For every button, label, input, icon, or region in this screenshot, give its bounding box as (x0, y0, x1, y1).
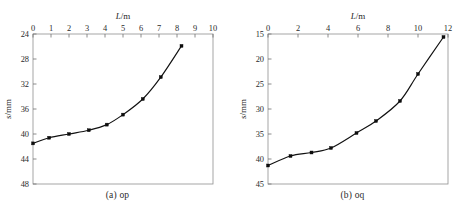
x-tick-label: 7 (157, 24, 161, 33)
x-tick-label: 0 (266, 24, 270, 33)
data-point (159, 76, 162, 79)
y-tick-label: 20 (256, 55, 264, 64)
x-tick-label: 8 (175, 24, 179, 33)
x-tick-label: 2 (296, 24, 300, 33)
x-axis-title: L/m (350, 11, 366, 21)
y-tick-label: 40 (256, 155, 264, 164)
panel-caption-a: (a) op (0, 190, 235, 200)
x-tick-label: 6 (139, 24, 143, 33)
y-tick-label: 45 (256, 180, 264, 189)
figure-row: 01234567891024283236404448L/ms/mm (a) op… (0, 0, 471, 218)
y-tick-label: 44 (21, 155, 30, 164)
y-axis-title: s/mm (3, 99, 13, 119)
x-axis-title-unit: /m (121, 11, 131, 21)
y-tick-label: 48 (21, 180, 29, 189)
data-point (375, 120, 378, 123)
data-point (267, 164, 270, 167)
y-tick-label: 40 (21, 130, 29, 139)
data-point (122, 113, 125, 116)
x-tick-label: 10 (414, 24, 422, 33)
x-tick-label: 4 (103, 24, 108, 33)
data-point (32, 142, 35, 145)
x-tick-label: 5 (121, 24, 125, 33)
y-tick-label: 30 (256, 105, 264, 114)
x-tick-label: 2 (67, 24, 71, 33)
y-tick-label: 35 (256, 130, 264, 139)
y-axis-title-unit: /mm (238, 99, 248, 116)
chart-panel-b: 02468101215202530354045L/ms/mm (b) oq (235, 0, 470, 218)
y-tick-label: 25 (256, 80, 264, 89)
x-tick-label: 4 (326, 24, 331, 33)
data-point (105, 123, 108, 126)
x-tick-label: 10 (209, 24, 217, 33)
data-point (87, 129, 90, 132)
y-axis-title-unit: /mm (3, 99, 13, 116)
y-tick-label: 36 (21, 105, 29, 114)
x-tick-label: 12 (444, 24, 452, 33)
data-point (355, 132, 358, 135)
x-axis-title: L/m (115, 11, 131, 21)
x-tick-label: 3 (85, 24, 89, 33)
plot-frame (268, 34, 448, 184)
x-tick-label: 9 (193, 24, 197, 33)
data-point (442, 36, 445, 39)
plot-area-b: 02468101215202530354045L/ms/mm (235, 0, 470, 190)
data-point (68, 133, 71, 136)
y-axis-title: s/mm (238, 99, 248, 119)
data-point (310, 151, 313, 154)
data-point (330, 147, 333, 150)
data-series-line (268, 37, 444, 166)
y-tick-label: 32 (21, 80, 29, 89)
panel-caption-b: (b) oq (235, 190, 470, 200)
chart-svg-b: 02468101215202530354045L/ms/mm (235, 0, 470, 190)
data-point (141, 98, 144, 101)
data-series-line (33, 46, 182, 144)
y-tick-label: 24 (21, 30, 30, 39)
y-tick-label: 28 (21, 55, 29, 64)
data-point (399, 100, 402, 103)
x-tick-label: 0 (31, 24, 35, 33)
y-tick-label: 15 (256, 30, 264, 39)
data-point (48, 136, 51, 139)
x-tick-label: 6 (356, 24, 360, 33)
chart-svg-a: 01234567891024283236404448L/ms/mm (0, 0, 235, 190)
data-point (289, 155, 292, 158)
plot-area-a: 01234567891024283236404448L/ms/mm (0, 0, 235, 190)
data-point (180, 44, 183, 47)
data-point (417, 73, 420, 76)
x-tick-label: 8 (386, 24, 390, 33)
plot-frame (33, 34, 213, 184)
chart-panel-a: 01234567891024283236404448L/ms/mm (a) op (0, 0, 235, 218)
x-tick-label: 1 (49, 24, 53, 33)
x-axis-title-unit: /m (356, 11, 366, 21)
